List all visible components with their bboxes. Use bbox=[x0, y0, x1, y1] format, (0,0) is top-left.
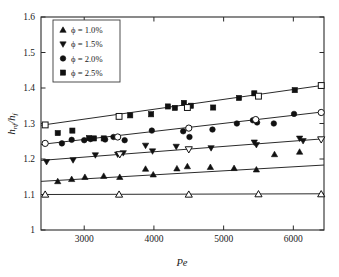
marker-triangle-up-filled bbox=[296, 149, 302, 154]
marker-square-open bbox=[42, 122, 48, 128]
marker-square-filled bbox=[101, 136, 106, 141]
marker-triangle-down-filled bbox=[92, 153, 98, 158]
marker-square-filled bbox=[172, 105, 177, 110]
x-tick-label: 3000 bbox=[75, 234, 94, 244]
marker-square-open bbox=[184, 105, 190, 111]
scatter-plot: 11.11.21.31.41.51.6 3000400050006000 ϕ =… bbox=[0, 0, 339, 277]
data-markers bbox=[42, 83, 325, 198]
y-tick-label: 1.5 bbox=[23, 48, 35, 58]
marker-circle-filled bbox=[81, 137, 87, 143]
marker-triangle-down-filled bbox=[43, 160, 49, 165]
marker-triangle-up-filled bbox=[82, 174, 88, 179]
x-tick-label: 5000 bbox=[214, 234, 233, 244]
marker-circle-filled bbox=[271, 121, 277, 127]
x-axis-title: Pe bbox=[175, 257, 187, 268]
figure-container: 11.11.21.31.41.51.6 3000400050006000 ϕ =… bbox=[0, 0, 339, 277]
marker-square-filled bbox=[149, 112, 154, 117]
marker-circle-filled bbox=[59, 141, 65, 147]
marker-square-open bbox=[256, 93, 262, 99]
legend-label: ϕ = 1.0% bbox=[71, 25, 103, 35]
marker-square-filled bbox=[60, 70, 65, 75]
y-tick-label: 1.2 bbox=[23, 154, 35, 164]
marker-triangle-up-filled bbox=[69, 176, 75, 181]
y-tick-label: 1.4 bbox=[23, 83, 35, 93]
marker-circle-open bbox=[42, 140, 48, 146]
marker-square-filled bbox=[292, 88, 297, 93]
marker-circle-open bbox=[318, 109, 324, 115]
marker-circle-filled bbox=[291, 111, 297, 117]
marker-triangle-down-open bbox=[185, 147, 192, 153]
marker-circle-open bbox=[115, 134, 121, 140]
svg-text:hnf/hf: hnf/hf bbox=[6, 113, 19, 135]
legend-label: ϕ = 1.5% bbox=[71, 39, 103, 49]
y-tick-label: 1 bbox=[30, 225, 35, 235]
marker-triangle-up-filled bbox=[150, 171, 156, 176]
marker-triangle-down-filled bbox=[208, 146, 214, 151]
marker-circle-filled bbox=[149, 128, 155, 134]
marker-circle-open bbox=[186, 125, 192, 131]
y-tick-label: 1.1 bbox=[23, 190, 35, 200]
y-axis-title: hnf/hf bbox=[6, 113, 19, 135]
marker-triangle-up-filled bbox=[184, 163, 190, 168]
marker-triangle-up-filled bbox=[207, 164, 213, 169]
marker-triangle-down-filled bbox=[173, 144, 179, 149]
marker-triangle-down-filled bbox=[142, 143, 148, 148]
marker-triangle-up-filled bbox=[231, 165, 237, 170]
marker-triangle-up-filled bbox=[101, 173, 107, 178]
legend-label: ϕ = 2.0% bbox=[71, 54, 103, 64]
marker-triangle-down-filled bbox=[300, 139, 306, 144]
marker-square-filled bbox=[211, 105, 216, 110]
marker-circle-filled bbox=[210, 127, 216, 133]
legend-label: ϕ = 2.5% bbox=[71, 68, 103, 78]
marker-square-filled bbox=[87, 135, 92, 140]
marker-triangle-up-filled bbox=[174, 165, 180, 170]
trend-line bbox=[41, 194, 324, 195]
marker-triangle-down-filled bbox=[70, 158, 76, 163]
marker-circle-open bbox=[253, 116, 259, 122]
marker-square-filled bbox=[236, 95, 241, 100]
marker-square-filled bbox=[70, 128, 75, 133]
marker-circle-filled bbox=[69, 137, 75, 143]
marker-triangle-up-filled bbox=[142, 166, 148, 171]
legend: ϕ = 1.0%ϕ = 1.5%ϕ = 2.0%ϕ = 2.5% bbox=[53, 20, 120, 82]
marker-square-open bbox=[116, 113, 122, 119]
marker-circle-filled bbox=[122, 137, 128, 143]
y-tick-label: 1.3 bbox=[23, 119, 35, 129]
marker-square-filled bbox=[55, 131, 60, 136]
marker-square-filled bbox=[165, 104, 170, 109]
y-tick-label: 1.6 bbox=[23, 12, 35, 22]
marker-square-filled bbox=[91, 136, 96, 141]
marker-circle-filled bbox=[234, 121, 240, 127]
marker-circle-filled bbox=[180, 129, 186, 135]
x-tick-label: 4000 bbox=[144, 234, 163, 244]
marker-circle-filled bbox=[187, 134, 193, 140]
marker-square-filled bbox=[128, 113, 133, 118]
marker-circle-filled bbox=[60, 56, 66, 62]
marker-triangle-up-filled bbox=[271, 151, 277, 156]
x-tick-label: 6000 bbox=[284, 234, 303, 244]
marker-square-open bbox=[318, 83, 324, 89]
